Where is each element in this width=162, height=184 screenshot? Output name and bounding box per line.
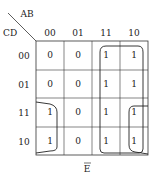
kmap-cell: 0: [36, 70, 64, 98]
col-header: 11: [92, 28, 120, 38]
kmap-cell: 1: [36, 98, 64, 126]
kmap-cell: 1: [120, 127, 148, 155]
col-variable-label: AB: [20, 9, 34, 19]
caption-e-bar: E: [80, 164, 94, 174]
kmap-cell: 1: [120, 70, 148, 98]
kmap-cell: 1: [92, 127, 120, 155]
kmap-cell: 0: [64, 70, 92, 98]
kmap-cell: 1: [120, 41, 148, 69]
kmap-cell: 0: [64, 127, 92, 155]
kmap-cell: 0: [64, 41, 92, 69]
col-header: 01: [64, 28, 92, 38]
row-header: 00: [14, 51, 34, 61]
kmap-cell: 1: [92, 70, 120, 98]
kmap-cell: 0: [64, 98, 92, 126]
kmap-cell: 0: [36, 41, 64, 69]
kmap-cell: 1: [92, 98, 120, 126]
kmap-cell: 1: [92, 41, 120, 69]
row-header: 10: [14, 137, 34, 147]
kmap-cell: 1: [36, 127, 64, 155]
row-header: 11: [14, 108, 34, 118]
col-header: 00: [36, 28, 64, 38]
row-header: 01: [14, 80, 34, 90]
row-variable-label: CD: [3, 28, 17, 38]
col-header: 10: [120, 28, 148, 38]
kmap-cell: 1: [120, 98, 148, 126]
